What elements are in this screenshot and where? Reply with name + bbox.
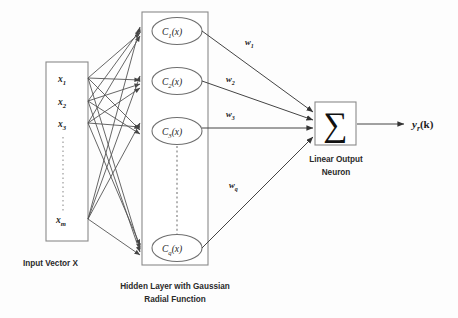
input-vector-caption: Input Vector X: [23, 259, 79, 268]
weight-link-2: [202, 81, 313, 120]
weight-label-wq: wq: [229, 180, 238, 192]
weight-label-w2: w2: [226, 74, 235, 86]
hidden-node-cq-label: Cq(x): [162, 244, 182, 256]
weight-link-q: [202, 137, 313, 248]
network-svg: x1 x2 x3 xm: [0, 0, 458, 318]
weight-link-1: [202, 31, 313, 112]
output-neuron-caption-line2: Neuron: [322, 168, 351, 177]
sigma-icon: ∑: [323, 106, 347, 144]
hidden-node-c1-label: C1(x): [162, 27, 182, 39]
hidden-node-c3-label: C3(x): [162, 127, 182, 139]
hidden-output-links: [202, 31, 313, 248]
weight-label-w3: w3: [226, 109, 235, 121]
rbf-network-diagram: x1 x2 x3 xm: [0, 0, 458, 318]
hidden-node-c2-label: C2(x): [162, 77, 182, 89]
input-vector-box: [46, 62, 88, 241]
weight-label-w1: w1: [245, 37, 254, 49]
hidden-layer-caption-line2: Radial Function: [144, 295, 205, 304]
hidden-layer-caption-line1: Hidden Layer with Gaussian: [120, 282, 230, 291]
input-hidden-links: [88, 27, 140, 255]
output-label: yr(k): [410, 118, 434, 133]
output-neuron-caption-line1: Linear Output: [309, 155, 363, 164]
